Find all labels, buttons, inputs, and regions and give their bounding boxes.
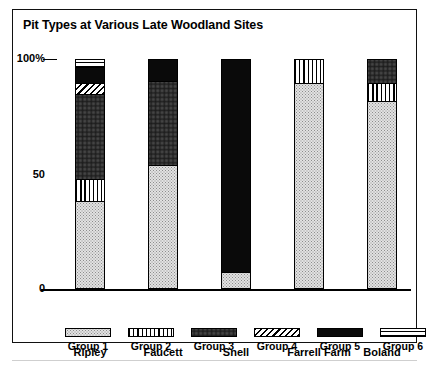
legend-swatch-group-1-icon [65,328,111,337]
bar-faucett[interactable] [148,59,178,289]
legend: Group 1 Group 2 Group 3 Group 4 Group 5 [57,328,417,362]
legend-swatch-group-2-icon [128,328,174,337]
bar-boland[interactable] [367,59,397,289]
y-axis-label-0: 0 [5,282,45,294]
segment-ripley-group-6 [76,60,104,67]
legend-swatch-group-4-icon [254,328,300,337]
chart-frame: Pit Types at Various Late Woodland Sites… [12,9,417,343]
legend-item-group-6[interactable]: Group 6 [372,328,433,352]
bar-ripley[interactable] [75,59,105,289]
segment-faucett-group-3 [149,81,177,165]
page-title: Pit Types at Various Late Woodland Sites [23,18,263,32]
plot-area: Ripley Faucett Snell Farrell Farm Boland [57,59,408,289]
chart-screenshot: Pit Types at Various Late Woodland Sites… [0,0,433,375]
legend-label-group-1: Group 1 [57,340,119,352]
segment-boland-group-3 [368,60,396,83]
legend-swatch-group-3-icon [191,328,237,337]
legend-item-group-2[interactable]: Group 2 [120,328,182,352]
legend-item-group-5[interactable]: Group 5 [309,328,371,352]
legend-item-group-1[interactable]: Group 1 [57,328,119,352]
segment-snell-group-5 [222,60,250,272]
legend-item-group-3[interactable]: Group 3 [183,328,245,352]
legend-label-group-6: Group 6 [372,340,433,352]
segment-boland-group-2 [368,83,396,101]
bar-farrell-farm[interactable] [294,59,324,289]
y-axis-tick-100 [43,59,57,60]
segment-farrell-farm-group-1 [295,83,323,288]
legend-label-group-5: Group 5 [309,340,371,352]
segment-boland-group-1 [368,101,396,288]
segment-ripley-group-2 [76,179,104,202]
legend-label-group-2: Group 2 [120,340,182,352]
legend-label-group-3: Group 3 [183,340,245,352]
segment-snell-group-1 [222,272,250,288]
segment-farrell-farm-group-2 [295,60,323,83]
y-axis-label-100: 100% [5,52,45,64]
segment-ripley-group-1 [76,201,104,288]
legend-label-group-4: Group 4 [246,340,308,352]
legend-swatch-group-5-icon [317,328,363,337]
legend-swatch-group-6-icon [380,328,426,337]
bar-snell[interactable] [221,59,251,289]
y-axis-label-50: 50 [5,168,45,180]
segment-faucett-group-1 [149,165,177,288]
legend-item-group-4[interactable]: Group 4 [246,328,308,352]
segment-ripley-group-5 [76,67,104,83]
footer-divider [12,360,417,361]
segment-ripley-group-3 [76,94,104,178]
x-axis-baseline [41,289,411,291]
segment-ripley-group-4 [76,83,104,94]
segment-faucett-group-5 [149,60,177,81]
